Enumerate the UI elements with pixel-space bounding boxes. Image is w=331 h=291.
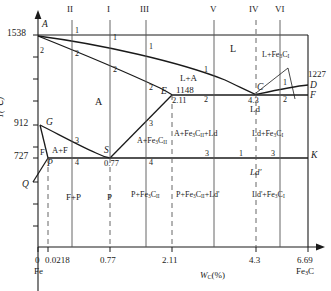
step-number-4-alloyIII: 4: [149, 159, 153, 167]
x-axis-left-end-fe: Fe: [34, 267, 43, 276]
region-liquid-austenite: L+A: [180, 74, 197, 83]
alloy-header-VI: VI: [275, 5, 285, 14]
y-axis-label: T(℃): [0, 97, 5, 118]
sup: I: [283, 193, 285, 199]
sup: II: [156, 193, 160, 199]
step-number-1-alloyV: 1: [204, 66, 208, 74]
region-austenite-cementite-ledeburite: A+Fe3CII+Ld: [174, 130, 217, 139]
temp-label-1148: 1148: [176, 86, 194, 95]
region-ledeburite-primary-cementite: Ld+Fe3CI: [252, 130, 283, 139]
fe3c-base: Fe: [296, 266, 305, 276]
txt: L+Fe: [262, 50, 279, 59]
fe-c-phase-diagram: T(℃) 1538 912 727 0 0.0218 0.77 2.11 4.3…: [0, 0, 331, 291]
txt: Ld+Fe: [252, 129, 273, 138]
fe3c-tail: C: [308, 266, 314, 276]
alloy-header-I: I: [107, 5, 110, 14]
region-pearlite-secondary-cementite: P+Fe3CII: [131, 191, 160, 200]
line-pq-solvus: [33, 158, 48, 182]
y-axis-arrow: [35, 10, 42, 19]
x-tick-4.3: 4.3: [249, 256, 260, 265]
point-label-F: F: [310, 91, 316, 101]
point-label-Q: Q: [22, 180, 29, 190]
region-liquid-primary-cementite: L+Fe3CI: [262, 51, 289, 60]
step-number-2-alloyI: 2: [113, 66, 117, 74]
x-tick-0.77: 0.77: [100, 256, 116, 265]
txt: A+Fe: [174, 129, 192, 138]
alloy-header-V: V: [210, 5, 217, 14]
x-axis-right-end-fe3c: Fe3C: [296, 267, 314, 276]
step-number-2-alloyVI: 2: [283, 96, 287, 104]
step-number-2-alloyIII: 2: [149, 84, 153, 92]
y-tick-1538: 1538: [7, 29, 26, 39]
step-number-3-alloyV: 3: [205, 150, 209, 158]
sup: I: [281, 132, 283, 138]
region-ferrite: F: [40, 148, 45, 157]
point-label-G: G: [46, 118, 53, 128]
sup: I: [287, 53, 289, 59]
step-number-2-alloyV: 2: [204, 96, 208, 104]
x-tick-6.69: 6.69: [297, 256, 313, 265]
txt: P+Fe: [131, 190, 148, 199]
region-austenite-secondary-cementite: A+Fe3CII: [137, 137, 167, 146]
tail: +Ld': [205, 190, 220, 199]
step-number-2-extra: 2: [40, 47, 44, 55]
x-tick-0: 0: [35, 256, 40, 265]
alloy-header-III: III: [140, 5, 149, 14]
x-axis-arrow: [316, 244, 325, 251]
point-label-A: A: [42, 20, 48, 30]
step-number-2-alloyII: 2: [75, 50, 79, 58]
region-pearlite-cementite-ledeburite: P+Fe3CII+Ld': [176, 191, 220, 200]
step-number-4-alloyII: 4: [75, 159, 79, 167]
txt: P+Fe: [176, 190, 193, 199]
tail: +Ld: [204, 129, 217, 138]
region-austenite-ferrite: A+F: [52, 146, 68, 155]
region-ferrite-pearlite: F+P: [66, 193, 81, 202]
x-tick-2.11: 2.11: [162, 256, 177, 265]
point-label-K: K: [311, 151, 317, 161]
step-number-1-alloyIII: 1: [149, 43, 153, 51]
point-label-S: S: [104, 146, 109, 156]
step-number-1-eutectoid: 1: [239, 150, 243, 158]
point-label-P: P: [47, 159, 53, 169]
alloy-header-II: II: [67, 5, 73, 14]
region-ledeburite-transformed: Ld': [250, 168, 261, 177]
x-axis-label-w: W: [200, 270, 208, 280]
x-axis-label: WC(%): [200, 271, 225, 280]
point-label-E: E: [161, 87, 167, 97]
step-number-3-alloyII: 3: [75, 137, 79, 145]
composition-2.11-at-E: 2.11: [172, 96, 187, 105]
region-pearlite: P: [107, 193, 112, 202]
region-ledeburite-transformed-primary-cementite: Ld'+Fe3CI: [252, 191, 285, 200]
region-ledeburite: Ld: [250, 105, 260, 114]
txt: A+Fe: [137, 136, 155, 145]
y-axis-ticks: [33, 35, 38, 226]
x-axis-label-pct: (%): [212, 270, 226, 280]
line-es-acm: [110, 95, 172, 158]
step-number-3-alloyIII: 3: [149, 120, 153, 128]
step-number-1-alloyI: 1: [113, 34, 117, 42]
liquidus-ac-curve: [38, 36, 256, 95]
point-label-C: C: [257, 83, 263, 93]
step-number-1-alloyII: 1: [75, 27, 79, 35]
y-tick-912: 912: [14, 119, 28, 129]
y-tick-727: 727: [14, 152, 28, 162]
region-liquid: L: [230, 44, 236, 54]
composition-0.77-at-S: 0.77: [104, 159, 119, 168]
sup: II: [163, 139, 167, 145]
step-number-1-alloyVI: 1: [283, 79, 287, 87]
alloy-header-IV: IV: [249, 5, 259, 14]
txt: Ld'+Fe: [252, 190, 275, 199]
step-number-3-alloyVI: 3: [271, 150, 275, 158]
temp-label-1227: 1227: [308, 70, 326, 79]
x-axis-ticks: [38, 247, 308, 252]
x-tick-0.0218: 0.0218: [45, 256, 70, 265]
region-austenite: A: [95, 97, 102, 107]
